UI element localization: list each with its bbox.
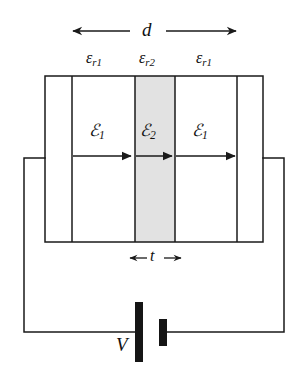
battery-long-plate bbox=[135, 302, 143, 362]
dimension-label-d: d bbox=[142, 20, 152, 39]
dielectric-label-right: εr1 bbox=[196, 50, 212, 68]
dielectric-slab-middle bbox=[135, 76, 175, 242]
dimension-label-t: t bbox=[150, 248, 154, 264]
field-label-right: ℰ1 bbox=[192, 122, 208, 142]
voltage-source-label: V bbox=[116, 335, 128, 354]
battery-short-plate bbox=[159, 319, 167, 346]
capacitor-dielectric-diagram: d εr1 εr2 εr1 ℰ1 ℰ2 ℰ1 t V bbox=[0, 0, 300, 371]
dielectric-label-left: εr1 bbox=[86, 50, 102, 68]
voltage-source-battery bbox=[135, 302, 167, 362]
field-label-middle: ℰ2 bbox=[140, 122, 156, 142]
dielectric-label-middle: εr2 bbox=[139, 50, 155, 68]
right-circuit-wire bbox=[163, 158, 284, 332]
field-label-left: ℰ1 bbox=[89, 122, 105, 142]
capacitor-body bbox=[45, 76, 263, 242]
left-circuit-wire bbox=[24, 158, 139, 332]
